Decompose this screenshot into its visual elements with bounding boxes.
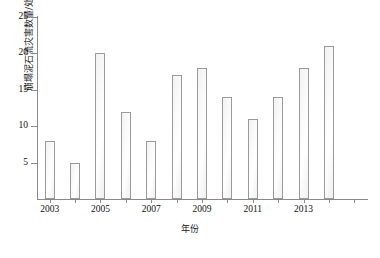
- x-tick-label-2003: 2003: [40, 204, 59, 214]
- x-tick-label-2013: 2013: [294, 204, 313, 214]
- x-tick-2003: [50, 199, 51, 203]
- bar-2005: [95, 53, 105, 199]
- bar-2014: [324, 46, 334, 199]
- x-tick-2013: [304, 199, 305, 203]
- bar-2003: [45, 141, 55, 199]
- x-tick-2010: [227, 199, 228, 203]
- bar-2004: [70, 163, 80, 199]
- x-tick-2009: [202, 199, 203, 203]
- bar-2006: [121, 112, 131, 199]
- bar-2008: [172, 75, 182, 199]
- bar-2012: [273, 97, 283, 199]
- y-tick-label-25: 25: [8, 11, 28, 21]
- x-tick-2005: [100, 199, 101, 203]
- x-axis-title: 年份: [0, 222, 380, 235]
- x-tick-2006: [126, 199, 127, 203]
- bar-2007: [146, 141, 156, 199]
- x-tick-2014: [329, 199, 330, 203]
- x-tick-2011: [253, 199, 254, 203]
- x-tick-2012: [278, 199, 279, 203]
- x-tick-label-2009: 2009: [193, 204, 212, 214]
- x-tick-label-2007: 2007: [142, 204, 161, 214]
- bars-layer: [37, 17, 367, 199]
- y-tick-label-20: 20: [8, 47, 28, 57]
- x-tick-2007: [151, 199, 152, 203]
- x-tick-2004: [75, 199, 76, 203]
- y-tick-label-10: 10: [8, 120, 28, 130]
- x-tick-2008: [177, 199, 178, 203]
- x-tick-label-2005: 2005: [91, 204, 110, 214]
- bar-2009: [197, 68, 207, 199]
- y-tick-label-5: 5: [8, 157, 28, 167]
- bar-2011: [248, 119, 258, 199]
- bar-2013: [299, 68, 309, 199]
- bar-chart: 崩塌泥石流灾害数量/处 510152025 200320052007200920…: [0, 0, 380, 258]
- x-tick-label-2011: 2011: [243, 204, 262, 214]
- x-tick-2015: [354, 199, 355, 203]
- bar-2010: [222, 97, 232, 199]
- y-tick-label-15: 15: [8, 84, 28, 94]
